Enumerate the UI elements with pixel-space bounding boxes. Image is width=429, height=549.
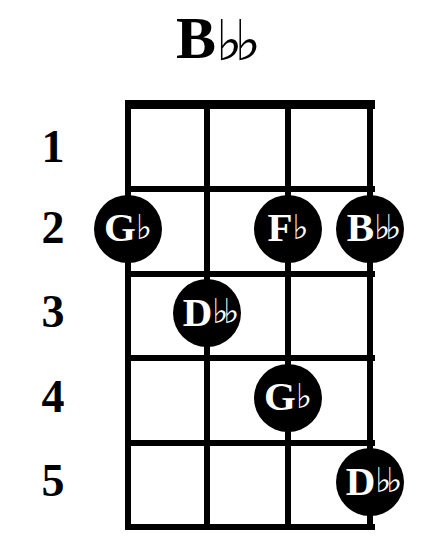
note-dot-string1-fret2: G♭ xyxy=(94,195,162,263)
fret-number-label-5: 5 xyxy=(22,458,84,504)
chord-fretboard-diagram: 12345G♭F♭B♭♭D♭♭G♭D♭♭ xyxy=(0,0,429,549)
fret-line-4 xyxy=(125,440,375,446)
note-letter: D xyxy=(183,292,213,333)
note-dot-string3-fret4: G♭ xyxy=(254,364,322,432)
string-line-1 xyxy=(125,100,131,530)
note-dot-string3-fret2: F♭ xyxy=(254,195,322,263)
fret-number-label-4: 4 xyxy=(22,374,84,420)
fretboard-nut xyxy=(125,100,375,109)
fret-number-label-1: 1 xyxy=(22,124,84,170)
fret-line-5 xyxy=(125,524,375,530)
note-letter: G xyxy=(104,207,136,248)
fret-line-1 xyxy=(125,186,375,192)
fret-line-3 xyxy=(125,355,375,361)
note-dot-string2-fret3: D♭♭ xyxy=(173,279,241,347)
double-flat-icon: ♭♭ xyxy=(375,463,397,497)
fret-number-label-3: 3 xyxy=(22,289,84,335)
flat-icon: ♭ xyxy=(293,210,309,244)
double-flat-icon: ♭♭ xyxy=(212,294,234,328)
string-line-3 xyxy=(285,100,291,530)
note-letter: B xyxy=(347,207,374,248)
fret-number-label-2: 2 xyxy=(22,205,84,251)
double-flat-icon: ♭♭ xyxy=(374,210,396,244)
note-letter: F xyxy=(267,207,292,248)
flat-icon: ♭ xyxy=(136,210,152,244)
note-dot-string4-fret2: B♭♭ xyxy=(336,195,404,263)
note-dot-string4-fret5: D♭♭ xyxy=(336,448,404,516)
flat-icon: ♭ xyxy=(296,379,312,413)
note-letter: D xyxy=(346,461,376,502)
fret-line-2 xyxy=(125,271,375,277)
note-letter: G xyxy=(264,376,296,417)
